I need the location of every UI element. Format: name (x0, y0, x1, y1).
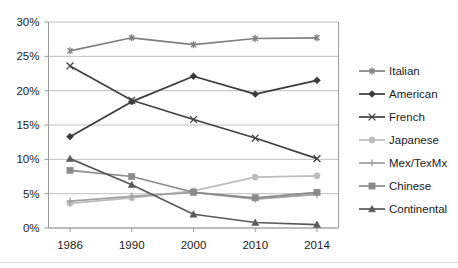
legend-label: American (389, 88, 438, 100)
y-axis-tick-label: 25% (16, 50, 39, 62)
legend-item-chinese[interactable]: Chinese (359, 180, 431, 192)
legend-label: Italian (389, 65, 420, 77)
data-point-diamond-marker (369, 91, 376, 98)
chart-canvas: 0%5%10%15%20%25%30% 19861990200020102014… (0, 0, 458, 268)
legend-item-continental[interactable]: Continental (359, 203, 447, 215)
legend-item-italian[interactable]: Italian (359, 65, 420, 77)
data-point-diamond-marker (314, 77, 321, 84)
chart-legend: ItalianAmericanFrenchJapaneseMex/TexMxCh… (359, 65, 447, 215)
x-axis-tick-label: 2000 (181, 239, 207, 251)
y-axis-tick-label: 30% (16, 16, 39, 28)
x-axis-tick-label: 1986 (57, 239, 83, 251)
legend-item-japanese[interactable]: Japanese (359, 134, 439, 146)
legend-label: Japanese (389, 134, 439, 146)
line-chart: 0%5%10%15%20%25%30% 19861990200020102014… (0, 0, 458, 268)
data-point-cross-marker (67, 63, 74, 70)
x-axis-tick-labels: 19861990200020102014 (57, 239, 330, 251)
y-axis-tick-label: 5% (23, 188, 40, 200)
y-axis-tick-label: 15% (16, 119, 39, 131)
data-point-circle-marker (252, 174, 258, 180)
x-axis-tick-label: 2010 (242, 239, 268, 251)
data-point-square-marker (190, 189, 196, 195)
x-axis-tick-label: 2014 (304, 239, 330, 251)
data-point-circle-marker (369, 137, 375, 143)
series-italian (67, 34, 319, 54)
legend-label: French (389, 111, 425, 123)
legend-label: Mex/TexMx (389, 157, 447, 169)
y-axis-tick-label: 0% (23, 222, 40, 234)
y-axis-tick-label: 20% (16, 85, 39, 97)
data-series (66, 34, 320, 227)
y-axis-tick-labels: 0%5%10%15%20%25%30% (16, 16, 39, 234)
data-point-circle-marker (314, 173, 320, 179)
data-point-square-marker (129, 173, 135, 179)
data-point-triangle-marker (67, 155, 74, 161)
data-point-square-marker (252, 195, 258, 201)
data-point-square-marker (369, 183, 375, 189)
y-axis-tick-label: 10% (16, 153, 39, 165)
legend-item-french[interactable]: French (359, 111, 425, 123)
legend-label: Chinese (389, 180, 431, 192)
series-american (67, 73, 321, 140)
legend-item-mex-texmx[interactable]: Mex/TexMx (359, 157, 447, 169)
data-point-diamond-marker (190, 73, 197, 80)
data-point-square-marker (67, 167, 73, 173)
data-point-diamond-marker (252, 91, 259, 98)
data-point-plus-marker (368, 159, 375, 166)
legend-label: Continental (389, 203, 447, 215)
series-line (70, 76, 317, 136)
data-point-square-marker (314, 189, 320, 195)
data-point-diamond-marker (67, 133, 74, 140)
x-axis-tick-label: 1990 (119, 239, 145, 251)
legend-item-american[interactable]: American (359, 88, 438, 100)
